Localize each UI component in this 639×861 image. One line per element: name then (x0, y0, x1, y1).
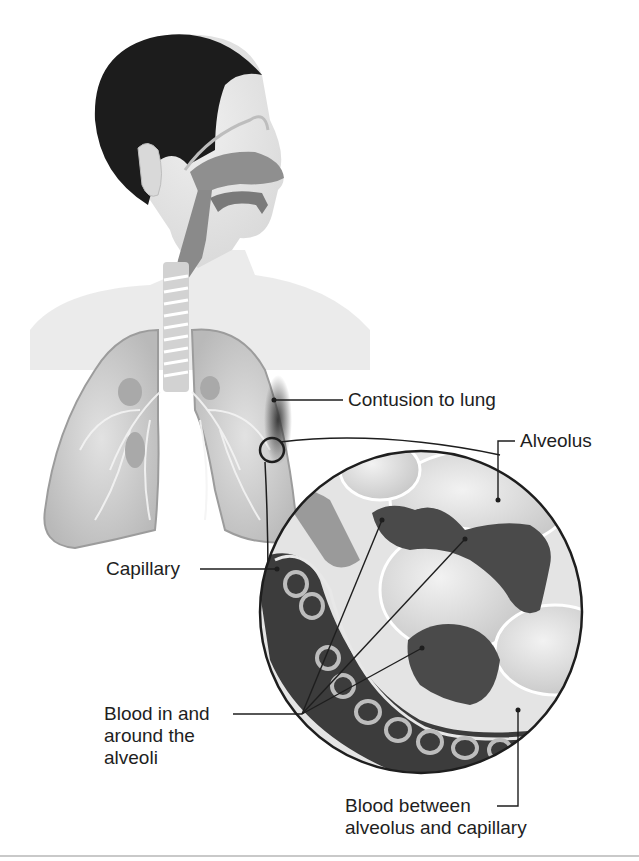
label-blood-between-alveolus-and-capillary: Blood between alveolus and capillary (345, 795, 527, 839)
label-blood-in-and-around-alveoli: Blood in and around the alveoli (104, 703, 210, 769)
trachea (163, 262, 189, 392)
label-line: alveolus and capillary (345, 817, 527, 839)
magnified-alveoli-view (255, 440, 615, 793)
label-contusion-to-lung: Contusion to lung (348, 389, 496, 411)
label-line: around the (104, 725, 210, 747)
contusion-area (264, 375, 292, 465)
label-line: Blood in and (104, 703, 210, 725)
head (95, 34, 284, 300)
label-capillary: Capillary (106, 558, 180, 580)
label-line: Blood between (345, 795, 527, 817)
label-line: alveoli (104, 747, 210, 769)
label-alveolus: Alveolus (520, 430, 592, 452)
bottom-divider (0, 855, 639, 857)
